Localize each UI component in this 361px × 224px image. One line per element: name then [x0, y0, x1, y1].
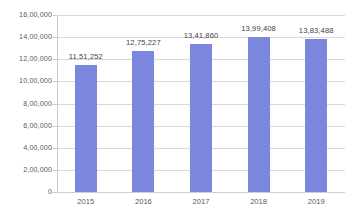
gridline: [57, 192, 345, 193]
bar-value-label-2017: 13,41,860: [173, 32, 229, 40]
bar-value-label-2019: 13,83,488: [288, 27, 344, 35]
y-axis-tick-label: 12,00,000: [19, 55, 52, 62]
y-axis-tick-label: 4,00,000: [23, 144, 52, 151]
y-axis-tick-label: 2,00,000: [23, 166, 52, 173]
y-axis-tick-label: 10,00,000: [19, 77, 52, 84]
y-axis-tick-label: 8,00,000: [23, 100, 52, 107]
bar-2017: [190, 44, 212, 192]
bar-2018: [248, 37, 270, 192]
x-axis-label-2018: 2018: [234, 198, 284, 206]
bar-value-label-2018: 13,99,408: [231, 25, 287, 33]
bar-value-label-2015: 11,51,252: [58, 53, 114, 61]
x-axis-label-2019: 2019: [291, 198, 341, 206]
x-axis-label-2015: 2015: [61, 198, 111, 206]
x-axis-label-2017: 2017: [176, 198, 226, 206]
y-axis-tick-label: 14,00,000: [19, 33, 52, 40]
x-axis-label-2016: 2016: [118, 198, 168, 206]
bar-2015: [75, 65, 97, 192]
plot-area: [57, 15, 345, 192]
bar-value-label-2016: 12,75,227: [115, 39, 171, 47]
gridline: [57, 15, 345, 16]
bar-2019: [305, 39, 327, 192]
y-axis-tick-label: 6,00,000: [23, 122, 52, 129]
y-axis-tick-label: 0: [48, 188, 52, 195]
y-axis-tick-label: 16,00,000: [19, 11, 52, 18]
bar-chart: 02,00,0004,00,0006,00,0008,00,00010,00,0…: [0, 0, 361, 224]
bar-2016: [132, 51, 154, 192]
